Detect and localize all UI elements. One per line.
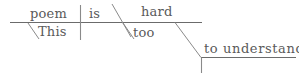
word-adverb-too: too [133,26,154,39]
predicate-complement-slant [112,4,131,37]
word-subject-poem: poem [30,7,67,20]
word-verb-is: is [89,7,100,20]
sentence-diagram: poem This is hard too to understand [0,0,299,80]
word-predicate-adjective-hard: hard [141,5,172,18]
word-modifier-this: This [38,25,67,38]
word-infinitive-to-understand: to understand [204,42,299,55]
infinitive-connector-slant [175,23,201,58]
